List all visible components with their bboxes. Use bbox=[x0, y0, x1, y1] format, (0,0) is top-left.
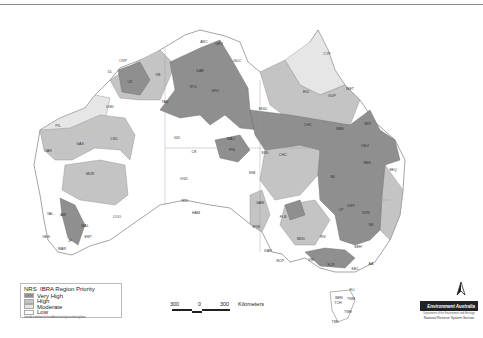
region-label: DAB bbox=[196, 69, 204, 73]
region-label: GFU bbox=[215, 42, 223, 46]
region-label: NCP bbox=[276, 259, 284, 263]
source-path: /anrdcode/work/nrsdbns/verti/priorities/… bbox=[24, 315, 85, 319]
region-label: CHC bbox=[279, 153, 287, 157]
region-label: SEQ bbox=[389, 168, 397, 172]
region-label: NUL bbox=[181, 199, 188, 203]
region-label: CR bbox=[191, 150, 197, 154]
region-label: EIU bbox=[303, 90, 309, 94]
region-label: STU bbox=[189, 85, 197, 89]
region-label: BBN bbox=[336, 127, 344, 131]
region-label: MDD bbox=[297, 237, 306, 241]
region-label: SEH bbox=[354, 245, 362, 249]
region-label: RIV bbox=[320, 235, 327, 239]
swatch-moderate bbox=[24, 304, 34, 309]
region-label: OVP bbox=[119, 59, 127, 63]
region-label: CHC bbox=[304, 123, 312, 127]
region-label: NSS bbox=[362, 211, 370, 215]
region-label: DEU bbox=[361, 144, 369, 148]
legend-title: NRS IBRA Region Priority bbox=[24, 286, 95, 292]
swatch-high bbox=[24, 299, 34, 304]
region-label: CK bbox=[128, 80, 134, 84]
region-label: BBS bbox=[363, 161, 371, 165]
region-label: EYB bbox=[252, 225, 260, 229]
swatch-very-high bbox=[24, 293, 34, 298]
region-label: ARC bbox=[200, 40, 208, 44]
region-label: GUC bbox=[233, 59, 241, 63]
swatch-low bbox=[24, 310, 34, 315]
region-label: VB bbox=[156, 73, 161, 77]
region-label: DRP bbox=[347, 204, 355, 208]
region-label: TNM bbox=[347, 297, 355, 301]
region-label: GID bbox=[174, 136, 181, 140]
region-label: AW bbox=[60, 213, 66, 217]
region-label: MAL bbox=[81, 224, 88, 228]
logo-unit: National Reserve System Section bbox=[420, 316, 478, 320]
region-label: SCP bbox=[327, 263, 335, 267]
region-label: YAL bbox=[47, 212, 54, 216]
region-label: CYP bbox=[323, 52, 331, 56]
region-label: GAS bbox=[76, 142, 84, 146]
region-label: WAR bbox=[58, 247, 67, 251]
region-label: GAW bbox=[256, 201, 265, 205]
region-label: TCH bbox=[334, 301, 342, 305]
region-label: GVD bbox=[180, 177, 188, 181]
region-label: PIL bbox=[55, 124, 60, 128]
region-label: BRT bbox=[364, 122, 372, 126]
region-label: ESP bbox=[84, 235, 92, 239]
region-label: DL bbox=[108, 70, 113, 74]
logo-department: Department of the Environment and Herita… bbox=[420, 312, 478, 315]
map-legend: NRS IBRA Region Priority Very High High … bbox=[20, 283, 122, 318]
region-label: AA bbox=[369, 262, 374, 266]
region-label: BEN bbox=[335, 296, 343, 300]
region-label: TWE bbox=[344, 310, 353, 314]
region-label: LSD bbox=[111, 137, 118, 141]
region-label: SEC bbox=[351, 267, 359, 271]
region-label: ML bbox=[331, 175, 336, 179]
region-label: FLB bbox=[280, 215, 287, 219]
region-label: HAM bbox=[192, 211, 200, 215]
region-label: TSE bbox=[332, 320, 340, 324]
region-label: VM bbox=[308, 258, 313, 262]
region-label: MAC bbox=[227, 137, 235, 141]
region-label: GSD bbox=[106, 105, 114, 109]
region-label: GES bbox=[42, 235, 50, 239]
region-label: CAR bbox=[44, 149, 52, 153]
scale-bar-graphic bbox=[170, 309, 232, 315]
region-label: SIM bbox=[249, 171, 255, 175]
region-label: COO bbox=[113, 215, 121, 219]
region-label: MGD bbox=[259, 107, 268, 111]
region-label: TAN bbox=[162, 100, 169, 104]
tasmania-outline bbox=[330, 290, 355, 322]
region-label: WET bbox=[346, 87, 355, 91]
region-label: SB bbox=[369, 223, 374, 227]
region-label: CP bbox=[339, 208, 345, 212]
environment-australia-logo: Environment Australia bbox=[420, 301, 478, 311]
north-arrow-icon bbox=[456, 282, 466, 297]
region-label: GFU bbox=[211, 89, 219, 93]
region-label: FIN bbox=[229, 148, 235, 152]
legend-item-low: Low bbox=[24, 310, 48, 315]
region-label: SSD bbox=[261, 151, 269, 155]
region-label: MUR bbox=[86, 172, 95, 176]
region-label: KAN bbox=[264, 249, 272, 253]
region-label: FLI bbox=[349, 288, 354, 292]
region-label: GUP bbox=[328, 94, 336, 98]
